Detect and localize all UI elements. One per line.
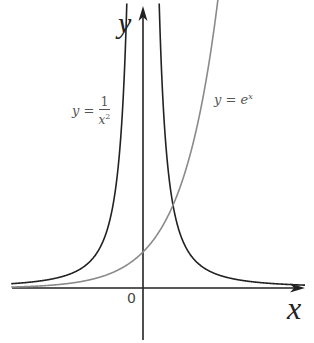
curve-exponential <box>11 0 218 287</box>
legend-exponential-lhs: y = e <box>214 92 248 107</box>
fraction-numerator: 1 <box>99 96 111 110</box>
legend-exponential: y = ex <box>214 92 253 107</box>
curve-inverse-square-right <box>159 4 305 286</box>
denominator-exponent: 2 <box>105 112 110 121</box>
legend-inverse-square: y = 1 x2 <box>72 96 110 127</box>
chart-plot-area <box>0 0 314 343</box>
x-axis-label: x <box>287 290 301 327</box>
legend-inverse-square-lhs: y = <box>72 103 94 118</box>
legend-exponential-exponent: x <box>248 92 253 101</box>
origin-label: 0 <box>127 290 136 306</box>
fraction-denominator: x2 <box>99 110 111 127</box>
curve-inverse-square-left <box>11 4 127 284</box>
y-axis-label: y <box>118 6 131 40</box>
fraction: 1 x2 <box>99 96 111 127</box>
